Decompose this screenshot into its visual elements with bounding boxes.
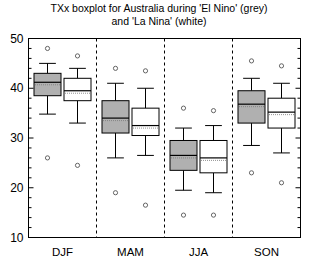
outlier-point [113,191,117,195]
boxplot-el-nino-djf [34,46,61,160]
boxplot-la-nina-djf [64,54,91,168]
outlier-point [249,171,253,175]
outlier-point [45,156,49,160]
outlier-point [211,213,215,217]
box-iqr [268,98,295,128]
outlier-point [75,163,79,167]
outlier-point [75,54,79,58]
boxplot-el-nino-son [238,59,265,175]
outlier-point [113,66,117,70]
x-tick-label-jja: JJA [189,246,209,258]
outlier-point [181,213,185,217]
boxplot-la-nina-mam [132,69,159,208]
boxes-layer [34,46,295,217]
y-tick-label: 40 [10,81,24,95]
x-tick-label-son: SON [254,246,279,258]
boxplot-figure: TXx boxplot for Australia during 'El Nin… [0,0,318,262]
boxplot-la-nina-jja [200,109,227,218]
outlier-point [279,64,283,68]
box-iqr [102,101,129,133]
outlier-point [143,203,147,207]
boxplot-el-nino-jja [170,106,197,217]
x-tick-label-mam: MAM [117,246,144,258]
boxplot-canvas: 1020304050DJFMAMJJASON [0,0,318,262]
x-tick-label-djf: DJF [52,246,73,258]
outlier-point [143,69,147,73]
outlier-point [249,59,253,63]
boxplot-la-nina-son [268,64,295,185]
outlier-point [211,109,215,113]
y-tick-label: 10 [10,231,24,245]
y-tick-label: 30 [10,131,24,145]
y-tick-label: 20 [10,181,24,195]
box-iqr [132,108,159,135]
y-tick-label: 50 [10,32,24,46]
box-iqr [64,78,91,100]
outlier-point [279,181,283,185]
axis-labels-layer: 1020304050DJFMAMJJASON [10,32,279,258]
boxplot-el-nino-mam [102,66,129,195]
outlier-point [181,106,185,110]
outlier-point [45,46,49,50]
box-iqr [200,140,227,172]
